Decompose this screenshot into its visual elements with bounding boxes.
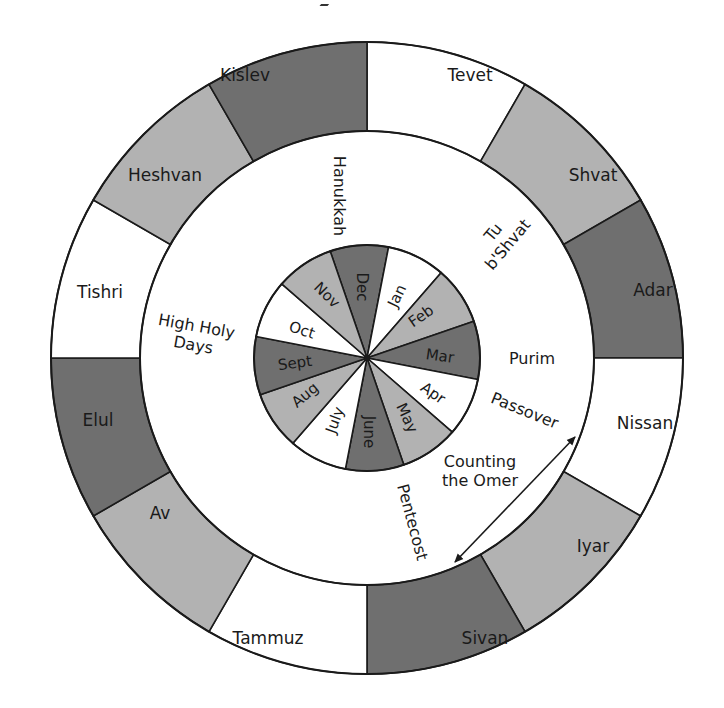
pie-center — [364, 355, 370, 361]
holiday-high-holy-days: High HolyDays — [153, 310, 236, 361]
holiday-pentecost: Pentecost — [393, 482, 432, 563]
holiday-passover: Passover — [488, 388, 561, 432]
holiday-line: the Omer — [442, 471, 518, 490]
holiday-line: Passover — [488, 388, 561, 432]
hebrew-month-label: Av — [150, 503, 171, 523]
holiday-line: Hanukkah — [330, 156, 349, 236]
hebrew-month-label: Shvat — [569, 165, 618, 185]
gregorian-months-pie: DecJanFebMarAprMayJuneJulyAugSeptOctNov — [254, 245, 480, 471]
hebrew-calendar-diagram: TevetShvatAdarNissanIyarSivanTammuzAvElu… — [0, 0, 724, 708]
hebrew-month-label: Adar — [633, 280, 673, 300]
holiday-line: Purim — [509, 349, 555, 368]
hebrew-month-label: Nissan — [617, 413, 673, 433]
hebrew-month-label: Iyar — [577, 536, 609, 556]
hebrew-month-label: Tishri — [76, 282, 123, 302]
gregorian-month-label: June — [360, 415, 378, 449]
hebrew-month-label: Tevet — [446, 65, 492, 85]
holiday-hanukkah: Hanukkah — [330, 156, 349, 236]
hebrew-month-label: Tammuz — [232, 628, 304, 648]
hebrew-month-label: Elul — [83, 410, 114, 430]
holiday-line: Pentecost — [393, 482, 432, 563]
hebrew-month-label: Heshvan — [128, 165, 202, 185]
calendar-wheel: TevetShvatAdarNissanIyarSivanTammuzAvElu… — [0, 0, 724, 708]
holiday-line: Counting — [444, 452, 516, 471]
holiday-tu-b-shvat: Tub'Shvat — [466, 203, 534, 274]
gregorian-month-label: Dec — [353, 272, 371, 301]
holiday-counting-the-omer: Countingthe Omer — [442, 452, 518, 490]
holiday-purim: Purim — [509, 349, 555, 368]
